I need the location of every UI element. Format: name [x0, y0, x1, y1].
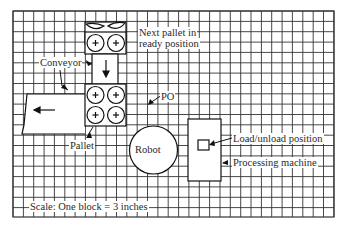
label-pallet: Pallet	[69, 140, 95, 151]
label-scale: Scale: One block = 3 inches	[29, 201, 149, 212]
processing-machine	[188, 119, 221, 181]
label-next-pallet-line1: Next pallet in	[138, 27, 197, 38]
layout-diagram: Next pallet in ready position Conveyor P…	[0, 0, 345, 233]
conveyor	[22, 94, 85, 134]
transfer-chute	[92, 54, 118, 84]
label-next-pallet-line2: ready position	[138, 38, 200, 49]
conveyor-pallets	[85, 84, 126, 126]
next-pallet-group	[85, 22, 126, 54]
load-unload-square	[198, 140, 209, 150]
label-robot: Robot	[134, 144, 162, 155]
label-processing-machine: Processing machine	[232, 157, 318, 168]
label-conveyor: Conveyor	[39, 57, 82, 68]
label-po: PO	[160, 91, 175, 102]
label-load-unload: Load/unload position	[232, 133, 324, 144]
